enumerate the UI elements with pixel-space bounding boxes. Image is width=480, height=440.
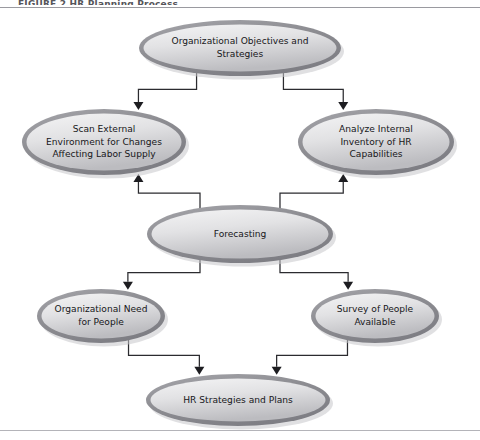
arrow-head [272,367,282,375]
connector-line [138,73,196,102]
arrow-head [123,282,133,290]
hr-strategies-and-plans-node: HR Strategies and Plans [146,374,333,430]
connector-line [129,340,200,367]
node-label-line: Capabilities [349,149,402,159]
bottom-divider-rule [0,430,480,431]
node-label-line: Strategies [217,49,264,59]
node-label-line: Organizational Need [55,304,148,314]
node-label-line: HR Strategies and Plans [183,395,293,405]
node-label-line: Available [354,317,396,327]
node-label-line: Scan External [73,124,136,134]
node-label-line: Analyze Internal [339,124,413,134]
scan-external-environment-node: Scan ExternalEnvironment for ChangesAffe… [22,109,189,179]
organizational-objectives-node: Organizational Objectives andStrategies [139,20,344,80]
edge-forecasting-to-survey-people [280,260,353,290]
figure-root: FIGURE 2 HR Planning Process Organizatio… [0,0,480,440]
node-label-line: Forecasting [214,229,267,239]
edge-forecasting-to-org-need [123,260,200,290]
node-label-line: Environment for Changes [46,137,162,147]
connector-line [277,340,348,367]
analyze-internal-inventory-node: Analyze InternalInventory of HRCapabilit… [298,109,457,179]
connector-line [280,182,343,208]
edge-forecasting-to-scan-external [133,174,200,208]
arrow-head [133,102,143,110]
organizational-need-node: Organizational Needfor People [37,289,168,347]
node-label-line: for People [78,317,124,327]
node-label-line: Affecting Labor Supply [52,149,156,159]
connector-line [128,260,200,282]
connector-line [283,73,343,102]
edge-objectives-to-analyze-internal [283,73,348,110]
edge-forecasting-to-analyze-internal [280,174,348,208]
node-layer: Organizational Objectives andStrategiesS… [22,20,457,430]
node-label-line: Survey of People [337,304,414,314]
edge-org-need-to-hr-strategies [129,340,205,375]
arrow-head [343,282,353,290]
node-label-line: Organizational Objectives and [172,36,309,46]
connector-line [138,182,200,208]
edge-survey-people-to-hr-strategies [272,340,348,375]
edge-objectives-to-scan-external [133,73,196,110]
forecasting-node: Forecasting [147,205,336,267]
arrow-head [194,367,204,375]
hr-planning-flowchart: Organizational Objectives andStrategiesS… [0,0,480,440]
arrow-head [338,102,348,110]
node-label-line: Inventory of HR [340,137,412,147]
connector-line [280,260,348,282]
survey-of-people-node: Survey of PeopleAvailable [311,289,442,347]
